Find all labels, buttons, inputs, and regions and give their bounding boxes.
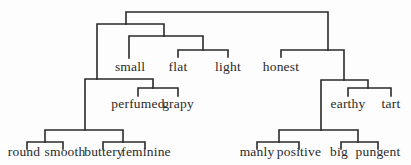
tree-branch bbox=[126, 12, 328, 50]
leaf-label-smooth: smooth bbox=[45, 145, 86, 159]
leaf-label-round: round bbox=[8, 145, 41, 159]
leaf-label-big: big bbox=[330, 145, 348, 159]
dendrogram-diagram: smallflatlighthonestperfumedgrapyearthyt… bbox=[0, 0, 411, 165]
tree-branch bbox=[178, 50, 228, 57]
leaf-label-positive: positive bbox=[277, 145, 321, 159]
tree-branch bbox=[138, 88, 178, 96]
tree-branch bbox=[129, 36, 203, 58]
tree-edges bbox=[0, 0, 411, 165]
leaf-label-earthy: earthy bbox=[331, 97, 366, 111]
leaf-label-tart: tart bbox=[382, 97, 401, 111]
leaf-label-manly: manly bbox=[240, 145, 275, 159]
leaf-label-flat: flat bbox=[169, 60, 188, 74]
leaf-label-honest: honest bbox=[263, 60, 299, 74]
leaf-label-pungent: pungent bbox=[356, 145, 401, 159]
leaf-label-feminine: feminine bbox=[121, 145, 171, 159]
leaf-label-light: light bbox=[215, 60, 241, 74]
tree-branch bbox=[279, 130, 358, 142]
tree-branch bbox=[45, 130, 123, 142]
leaf-label-grapy: grapy bbox=[162, 97, 194, 111]
leaf-label-small: small bbox=[115, 60, 145, 74]
leaf-label-perfumed: perfumed bbox=[111, 97, 164, 111]
leaf-label-buttery: buttery bbox=[84, 145, 124, 159]
tree-branch bbox=[348, 88, 391, 96]
